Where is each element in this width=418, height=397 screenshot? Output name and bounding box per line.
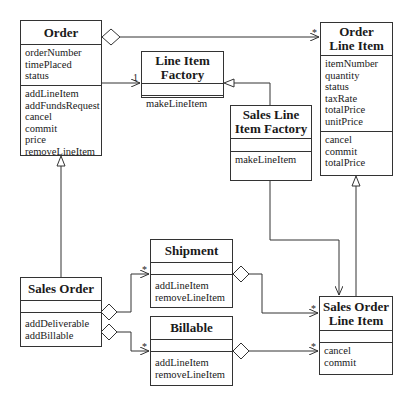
method: removeLineItem bbox=[155, 292, 228, 304]
class-name: Order bbox=[44, 26, 79, 40]
methods-section: addDeliverable addBillable bbox=[21, 313, 101, 343]
methods-section: addLineItem addFundsRequest cancel commi… bbox=[21, 86, 101, 159]
attribute: quantity bbox=[325, 70, 388, 82]
class-line-item-factory[interactable]: Line Item Factory makeLineItem bbox=[141, 51, 224, 98]
class-title: Line Item Factory bbox=[142, 52, 223, 84]
class-name: Line Item bbox=[329, 314, 384, 328]
association-so-shipment bbox=[117, 274, 149, 312]
attribute: totalPrice bbox=[325, 104, 388, 116]
multiplicity-label: * bbox=[311, 342, 316, 352]
method: cancel bbox=[325, 134, 388, 146]
class-name: Order bbox=[339, 25, 374, 39]
generalization-arrow-lif bbox=[224, 79, 234, 87]
methods-section: addLineItem removeLineItem bbox=[151, 275, 232, 305]
attribute: taxRate bbox=[325, 93, 388, 105]
class-order-line-item[interactable]: Order Line Item itemNumber quantity stat… bbox=[320, 22, 393, 176]
class-name: Shipment bbox=[165, 244, 218, 258]
methods-section: cancel commit bbox=[320, 343, 392, 370]
class-title: Sales Line Item Factory bbox=[231, 106, 311, 139]
attributes-section bbox=[151, 340, 232, 352]
attributes-section: orderNumber timePlaced status bbox=[21, 45, 101, 86]
generalization-arrow-oli bbox=[352, 176, 360, 186]
method: addFundsRequest bbox=[25, 100, 97, 112]
class-name: Line Item bbox=[155, 54, 210, 68]
class-shipment[interactable]: Shipment addLineItem removeLineItem bbox=[150, 239, 233, 308]
aggregation-shipment-soli bbox=[233, 266, 249, 282]
method: addLineItem bbox=[155, 280, 228, 292]
aggregation-so-billable bbox=[101, 324, 117, 340]
method: commit bbox=[325, 146, 388, 158]
class-name: Sales Order bbox=[28, 282, 94, 296]
attribute: status bbox=[325, 81, 388, 93]
method: addLineItem bbox=[155, 357, 228, 369]
class-title: Shipment bbox=[151, 240, 232, 263]
class-sales-line-item-factory[interactable]: Sales Line Item Factory makeLineItem bbox=[230, 105, 312, 181]
class-title: Sales Order bbox=[21, 278, 101, 301]
attributes-section bbox=[142, 84, 223, 96]
class-name: Sales Line bbox=[243, 108, 300, 122]
attribute: status bbox=[25, 70, 97, 82]
class-title: Order Line Item bbox=[321, 23, 392, 56]
attribute: timePlaced bbox=[25, 59, 97, 71]
method: removeLineItem bbox=[155, 369, 228, 381]
method: commit bbox=[324, 357, 388, 369]
method: cancel bbox=[25, 111, 97, 123]
class-sales-order[interactable]: Sales Order addDeliverable addBillable bbox=[20, 277, 102, 347]
method: addBillable bbox=[25, 330, 97, 342]
class-name: Sales Order bbox=[323, 300, 389, 314]
methods-section: addLineItem removeLineItem bbox=[151, 352, 232, 382]
association-shipment-soli bbox=[249, 274, 318, 313]
multiplicity-label: * bbox=[311, 304, 316, 314]
attribute: orderNumber bbox=[25, 47, 97, 59]
method: addLineItem bbox=[25, 88, 97, 100]
method: removeLineItem bbox=[25, 146, 97, 158]
method: makeLineItem bbox=[146, 98, 219, 110]
method: totalPrice bbox=[325, 157, 388, 169]
class-name: Line Item bbox=[329, 39, 384, 53]
class-title: Order bbox=[21, 21, 101, 45]
aggregation-order-orderlineitem bbox=[102, 29, 120, 45]
class-title: Billable bbox=[151, 317, 232, 340]
methods-section: makeLineItem bbox=[142, 96, 223, 112]
multiplicity-label: * bbox=[312, 28, 317, 38]
class-billable[interactable]: Billable addLineItem removeLineItem bbox=[150, 316, 233, 386]
method: price bbox=[25, 134, 97, 146]
attributes-section bbox=[21, 301, 101, 313]
methods-section: makeLineItem bbox=[231, 152, 311, 168]
association-slif-soli bbox=[270, 181, 339, 295]
class-name: Factory bbox=[161, 68, 204, 82]
class-sales-order-line-item[interactable]: Sales Order Line Item cancel commit bbox=[319, 296, 393, 375]
attributes-section bbox=[320, 331, 392, 343]
multiplicity-label: * bbox=[142, 342, 147, 352]
class-title: Sales Order Line Item bbox=[320, 297, 392, 331]
generalization-slif-lif bbox=[234, 83, 270, 105]
method: commit bbox=[25, 123, 97, 135]
multiplicity-label: * bbox=[142, 265, 147, 275]
attributes-section: itemNumber quantity status taxRate total… bbox=[321, 56, 392, 132]
aggregation-billable-soli bbox=[233, 343, 249, 359]
class-name: Item Factory bbox=[235, 122, 308, 136]
class-order[interactable]: Order orderNumber timePlaced status addL… bbox=[20, 20, 102, 156]
multiplicity-label: 1 bbox=[133, 73, 138, 83]
method: cancel bbox=[324, 345, 388, 357]
aggregation-so-shipment bbox=[101, 304, 117, 320]
methods-section: cancel commit totalPrice bbox=[321, 132, 392, 171]
attribute: itemNumber bbox=[325, 58, 388, 70]
attribute: unitPrice bbox=[325, 116, 388, 128]
attributes-section bbox=[151, 263, 232, 275]
class-name: Billable bbox=[170, 321, 213, 335]
attributes-section bbox=[231, 139, 311, 152]
method: addDeliverable bbox=[25, 318, 97, 330]
method: makeLineItem bbox=[235, 154, 307, 166]
